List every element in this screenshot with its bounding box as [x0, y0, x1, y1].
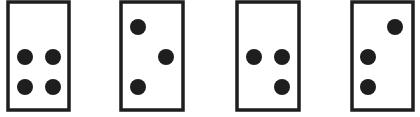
dot — [158, 49, 174, 65]
dot — [130, 19, 146, 35]
dot-card — [121, 2, 183, 110]
dot — [45, 49, 61, 65]
dot — [17, 79, 33, 95]
dot-card — [352, 2, 413, 110]
dot — [246, 49, 262, 65]
dot — [360, 79, 376, 95]
dot-card — [237, 2, 299, 110]
dot — [274, 79, 290, 95]
dot-card — [8, 2, 69, 110]
dot-cards-figure — [0, 0, 420, 117]
dot — [130, 79, 146, 95]
dot — [274, 49, 290, 65]
dot — [17, 49, 33, 65]
dot — [387, 19, 403, 35]
dot — [360, 49, 376, 65]
dot — [45, 79, 61, 95]
